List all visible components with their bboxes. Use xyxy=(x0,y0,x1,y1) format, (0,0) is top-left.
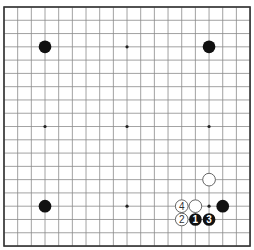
star-point xyxy=(207,125,210,128)
star-point xyxy=(43,125,46,128)
go-board[interactable]: 4213 xyxy=(0,0,254,250)
move-number-label: 3 xyxy=(206,214,212,225)
stone-circle xyxy=(203,41,216,54)
black-stone-d16[interactable] xyxy=(39,41,52,54)
stone-circle xyxy=(39,200,52,213)
black-stone-p3[interactable]: 1 xyxy=(189,213,202,226)
star-point xyxy=(125,205,128,208)
star-point xyxy=(207,205,210,208)
stones-layer: 4213 xyxy=(39,41,229,226)
black-stone-q16[interactable] xyxy=(203,41,216,54)
black-stone-d4[interactable] xyxy=(39,200,52,213)
white-stone-p4[interactable] xyxy=(189,200,202,213)
stone-circle xyxy=(216,200,229,213)
black-stone-r4[interactable] xyxy=(216,200,229,213)
move-number-label: 1 xyxy=(193,214,199,225)
white-stone-o3[interactable]: 2 xyxy=(175,213,188,226)
star-point xyxy=(125,125,128,128)
black-stone-q3[interactable]: 3 xyxy=(203,213,216,226)
stone-circle xyxy=(39,41,52,54)
star-point xyxy=(125,45,128,48)
stone-circle xyxy=(189,200,202,213)
white-stone-q6[interactable] xyxy=(203,173,216,186)
move-number-label: 4 xyxy=(179,201,185,212)
stone-circle xyxy=(203,173,216,186)
white-stone-o4[interactable]: 4 xyxy=(175,200,188,213)
move-number-label: 2 xyxy=(179,214,185,225)
